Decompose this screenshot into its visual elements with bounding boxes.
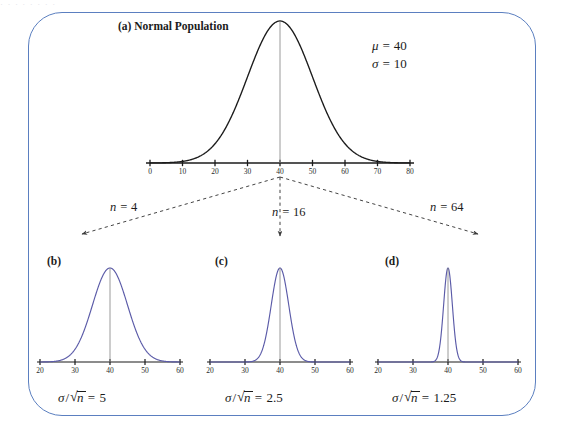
caption-d: σ/√n = 1.25	[392, 390, 456, 406]
svg-text:50: 50	[311, 366, 319, 375]
svg-text:30: 30	[241, 366, 249, 375]
svg-text:30: 30	[71, 366, 79, 375]
svg-text:40: 40	[106, 366, 114, 375]
clt-figure: · · · · · · · · (a) Normal Population μ …	[0, 0, 566, 430]
caption-b-value: 5	[99, 390, 106, 405]
svg-text:20: 20	[374, 366, 382, 375]
caption-d-var: n	[411, 390, 418, 405]
sampling-distribution-n4: 2030405060	[36, 268, 184, 375]
caption-c: σ/√n = 2.5	[225, 390, 283, 406]
svg-text:50: 50	[141, 366, 149, 375]
svg-text:20: 20	[206, 366, 214, 375]
caption-c-sqrt: √n	[237, 390, 251, 406]
svg-text:40: 40	[444, 366, 452, 375]
sampling-distribution-n64: 2030405060	[374, 268, 522, 375]
svg-text:20: 20	[36, 366, 44, 375]
svg-text:30: 30	[409, 366, 417, 375]
svg-text:50: 50	[479, 366, 487, 375]
sampling-plots-svg: 203040506020304050602030405060	[0, 0, 566, 380]
svg-text:60: 60	[346, 366, 354, 375]
sampling-distribution-n16: 2030405060	[206, 268, 354, 375]
caption-d-value: 1.25	[433, 390, 456, 405]
caption-b-sqrt: √n	[70, 390, 84, 406]
svg-text:60: 60	[514, 366, 522, 375]
caption-d-sqrt: √n	[404, 390, 418, 406]
caption-b: σ/√n = 5	[58, 390, 106, 406]
caption-b-var: n	[77, 390, 84, 405]
caption-c-var: n	[244, 390, 251, 405]
svg-text:60: 60	[176, 366, 184, 375]
caption-c-value: 2.5	[266, 390, 282, 405]
svg-text:40: 40	[276, 366, 284, 375]
sampling-plots: 203040506020304050602030405060	[0, 0, 566, 380]
